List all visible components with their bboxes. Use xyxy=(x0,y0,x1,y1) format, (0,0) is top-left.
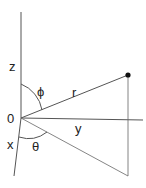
spherical-coordinates-diagram: z ϕ r 0 y x θ xyxy=(0,0,146,188)
r-label: r xyxy=(72,85,77,100)
y-axis-line xyxy=(21,118,143,120)
z-axis-label: z xyxy=(9,59,16,74)
phi-label: ϕ xyxy=(37,84,44,99)
y-axis-label: y xyxy=(75,121,82,136)
x-axis-label: x xyxy=(7,137,14,152)
theta-label: θ xyxy=(32,139,39,154)
x-axis-line xyxy=(14,118,21,176)
theta-arc xyxy=(19,132,47,138)
origin-label: 0 xyxy=(7,111,14,126)
point-marker xyxy=(125,72,130,77)
